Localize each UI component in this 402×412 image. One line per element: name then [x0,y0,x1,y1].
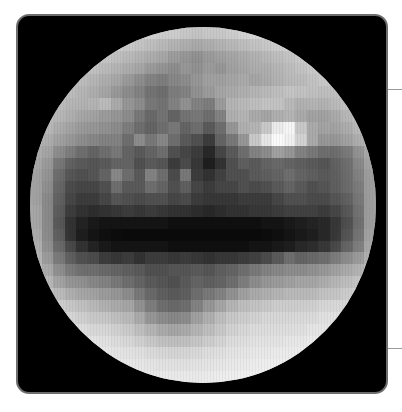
pixel-cell [42,359,54,371]
pixel-cell [53,312,65,324]
pixel-cell [307,39,319,51]
pixel-cell [330,51,342,63]
pixel-cell [272,27,284,39]
pixel-cell [318,371,330,383]
pixel-cell [284,371,296,383]
pixel-cell [330,336,342,348]
pixel-cell [318,359,330,371]
pixel-cell [307,51,319,63]
pixel-cell [341,347,353,359]
pixel-cell [42,86,54,98]
pixel-cell [353,51,365,63]
pixel-cell [353,27,365,39]
pixel-cell [330,27,342,39]
pixel-cell [364,110,376,122]
pixel-cell [364,74,376,86]
pixel-cell [65,359,77,371]
pixel-cell [30,51,42,63]
pixel-cell [364,51,376,63]
pixel-cell [111,371,123,383]
pixel-cell [307,371,319,383]
pixel-cell [364,288,376,300]
pixel-cell [341,86,353,98]
pixel-cell [53,27,65,39]
pixel-cell [53,371,65,383]
pixel-cell [76,359,88,371]
pixel-cell [76,336,88,348]
tick-mark-lower [388,348,402,349]
pixel-cell [30,122,42,134]
pixel-cell [318,336,330,348]
pixel-cell [42,324,54,336]
pixel-cell [30,324,42,336]
pixel-cell [318,63,330,75]
pixel-cell [364,300,376,312]
pixel-cell [99,371,111,383]
pixel-cell [364,27,376,39]
pixel-cell [364,371,376,383]
pixel-cell [76,51,88,63]
pixel-cell [353,371,365,383]
pixel-cell [53,63,65,75]
pixel-cell [53,336,65,348]
pixel-cell [30,288,42,300]
pixel-cell [122,27,134,39]
pixel-cell [30,336,42,348]
pixel-cell [341,27,353,39]
pixel-cell [42,39,54,51]
pixel-cell [53,347,65,359]
pixel-cell [295,39,307,51]
pixel-cell [65,347,77,359]
pixel-cell [330,371,342,383]
pixel-cell [76,39,88,51]
pixel-cell [341,371,353,383]
pixel-cell [65,63,77,75]
tick-mark-upper [388,89,402,90]
pixel-cell [88,39,100,51]
pixel-cell [30,110,42,122]
pixel-cell [42,74,54,86]
pixel-cell [341,51,353,63]
pixel-cell [330,324,342,336]
pixel-cell [353,336,365,348]
pixel-cell [30,39,42,51]
pixel-cell [307,359,319,371]
pixel-cell [295,371,307,383]
pixel-cell [30,276,42,288]
pixel-cell [122,371,134,383]
pixel-cell [353,63,365,75]
pixel-cell [65,51,77,63]
pixel-cell [353,312,365,324]
pixel-cell [364,98,376,110]
pixel-cell [30,27,42,39]
pixel-cell [330,359,342,371]
pixel-cell [53,74,65,86]
pixel-cell [76,27,88,39]
pixel-cell [364,347,376,359]
pixel-cell [364,122,376,134]
pixel-cell [284,27,296,39]
pixel-cell [364,264,376,276]
pixel-cell [99,359,111,371]
pixel-cell [330,39,342,51]
pixel-cell [30,86,42,98]
pixel-cell [65,324,77,336]
pixel-cell [364,39,376,51]
pixel-cell [341,63,353,75]
pixel-cell [272,371,284,383]
pixel-cell [65,27,77,39]
limb-brightening [30,27,376,383]
pixel-cell [307,347,319,359]
pixel-cell [42,347,54,359]
pixel-cell [42,371,54,383]
pixel-cell [364,63,376,75]
pixel-cell [330,74,342,86]
pixel-cell [295,27,307,39]
pixel-cell [42,300,54,312]
pixel-cell [341,39,353,51]
pixel-cell [318,27,330,39]
pixel-cell [353,324,365,336]
pixel-cell [364,359,376,371]
pixel-cell [341,336,353,348]
pixel-cell [318,347,330,359]
